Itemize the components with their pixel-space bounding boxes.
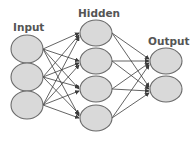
edge — [112, 33, 149, 87]
output-layer: Output — [148, 35, 189, 102]
edge — [112, 93, 149, 118]
hidden-node — [80, 76, 112, 102]
edge — [43, 91, 79, 105]
input-node — [11, 35, 43, 63]
output-node — [150, 48, 182, 74]
hidden-layer: Hidden — [78, 7, 120, 131]
hidden-layer-label: Hidden — [78, 7, 120, 19]
edges-input-hidden — [43, 33, 79, 118]
input-layer-label: Input — [13, 21, 44, 33]
edge — [43, 63, 79, 77]
edge — [112, 33, 149, 59]
edge — [112, 89, 149, 91]
input-node — [11, 91, 43, 119]
edge — [43, 105, 79, 118]
hidden-node — [80, 105, 112, 131]
hidden-node — [80, 48, 112, 74]
hidden-node — [80, 20, 112, 46]
output-node — [150, 76, 182, 102]
edge — [112, 65, 149, 118]
input-layer: Input — [11, 21, 44, 119]
output-layer-label: Output — [148, 35, 189, 47]
neural-network-diagram: Input Hidden Output — [0, 0, 194, 145]
edges-hidden-output — [112, 33, 149, 118]
input-node — [11, 63, 43, 91]
